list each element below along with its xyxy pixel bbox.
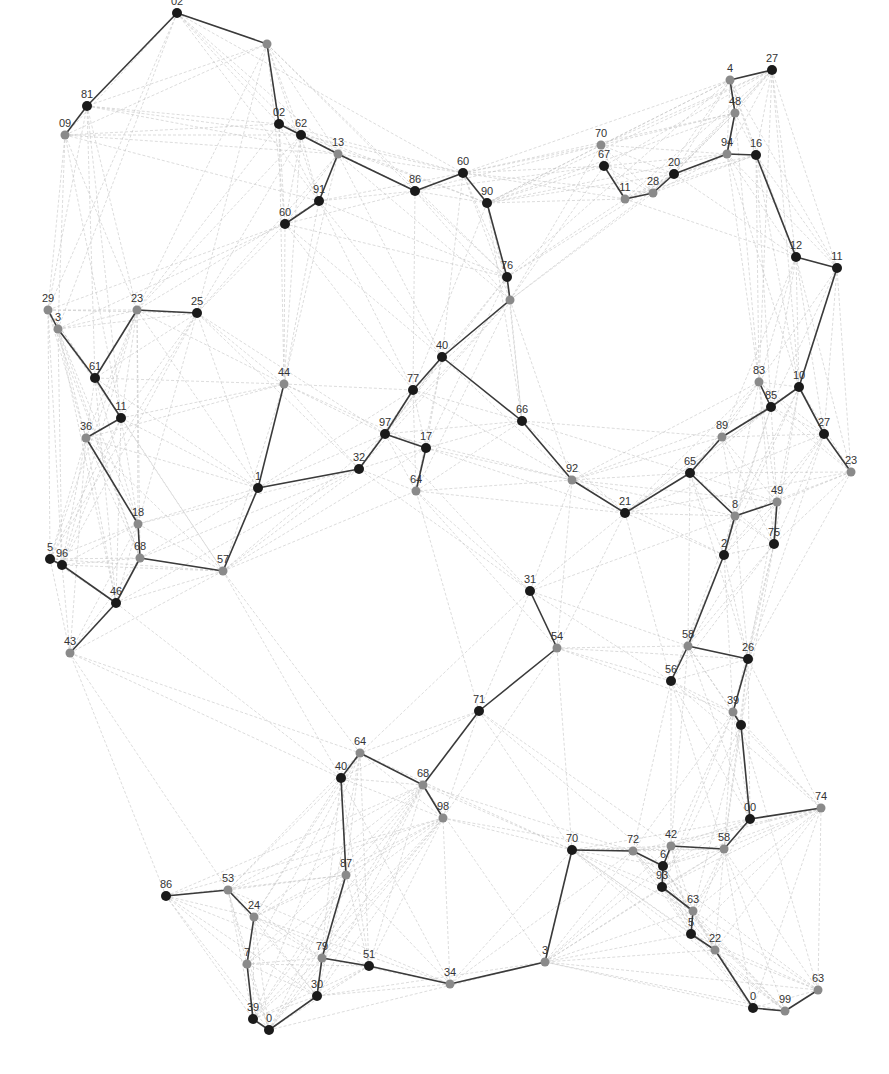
graph-node: 11 [831, 250, 842, 273]
node-label: 5 [688, 916, 694, 928]
node-label: 27 [818, 416, 830, 428]
light-edge [507, 199, 625, 277]
light-edge [416, 491, 557, 648]
graph-node: 60 [457, 155, 469, 178]
light-edge [442, 173, 463, 357]
path-edge [572, 850, 633, 851]
graph-node: 98 [437, 800, 449, 823]
light-edge [756, 155, 799, 387]
node-marker-icon [314, 196, 324, 206]
node-label: 92 [566, 462, 578, 474]
node-marker-icon [621, 195, 630, 204]
graph-node: 63 [812, 972, 824, 995]
light-edge [423, 785, 633, 851]
graph-node: 27 [766, 52, 778, 75]
graph-node: 62 [295, 117, 307, 140]
node-label: 3 [55, 311, 61, 323]
light-edge [722, 257, 796, 437]
node-marker-icon [296, 130, 306, 140]
light-edge [443, 818, 450, 984]
light-edge [818, 808, 821, 990]
light-edge [724, 849, 785, 1011]
node-label: 7 [244, 946, 250, 958]
node-label: 0 [750, 990, 756, 1002]
node-marker-icon [439, 814, 448, 823]
node-marker-icon [723, 150, 732, 159]
light-edge [48, 224, 285, 310]
node-label: 28 [647, 175, 659, 187]
node-marker-icon [649, 189, 658, 198]
node-marker-icon [736, 720, 746, 730]
graph-node: 49 [771, 484, 783, 507]
light-edge [759, 70, 772, 382]
node-label: 66 [516, 403, 528, 415]
light-edge [625, 382, 759, 513]
light-edge [671, 659, 748, 681]
node-label: 85 [765, 389, 777, 401]
node-marker-icon [264, 1025, 274, 1035]
node-label: 87 [340, 857, 352, 869]
graph-node: 18 [132, 506, 144, 529]
node-marker-icon [684, 642, 693, 651]
node-marker-icon [133, 306, 142, 315]
node-marker-icon [243, 960, 252, 969]
node-marker-icon [819, 429, 829, 439]
node-label: 21 [619, 495, 631, 507]
node-label: 32 [353, 451, 365, 463]
light-edge [319, 201, 507, 277]
node-marker-icon [263, 40, 272, 49]
light-edge [121, 384, 284, 418]
light-edge [197, 313, 359, 469]
light-edge [284, 224, 285, 384]
light-edge [284, 201, 319, 384]
node-marker-icon [482, 198, 492, 208]
graph-node: 97 [379, 416, 391, 439]
graph-node: 24 [248, 899, 260, 922]
node-label: 12 [790, 239, 802, 251]
graph-node: 51 [363, 948, 375, 971]
light-edge [197, 154, 338, 313]
light-edge [777, 434, 824, 502]
light-edge [70, 653, 166, 896]
node-marker-icon [766, 402, 776, 412]
node-marker-icon [832, 263, 842, 273]
light-edge [58, 310, 137, 329]
light-edge [724, 808, 821, 849]
light-edge [671, 681, 724, 849]
node-label: 39 [727, 694, 739, 706]
light-edge [671, 808, 821, 846]
graph-node: 85 [765, 389, 777, 412]
node-marker-icon [781, 1007, 790, 1016]
path-edge [258, 384, 284, 488]
node-marker-icon [748, 1003, 758, 1013]
light-edge [58, 329, 138, 524]
node-label: 02 [171, 0, 183, 7]
node-label: 74 [815, 790, 827, 802]
node-marker-icon [791, 252, 801, 262]
light-edge [479, 711, 671, 846]
light-edge [572, 407, 771, 480]
node-label: 83 [753, 364, 765, 376]
light-edge [693, 725, 741, 911]
node-marker-icon [817, 804, 826, 813]
node-marker-icon [219, 567, 228, 576]
node-marker-icon [568, 476, 577, 485]
graph-node: 44 [278, 366, 290, 389]
path-edge [95, 310, 137, 378]
node-marker-icon [686, 929, 696, 939]
node-label: 11 [619, 181, 630, 193]
graph-node: 22 [709, 932, 721, 955]
node-marker-icon [161, 891, 171, 901]
light-edge [443, 818, 572, 850]
light-edge [87, 106, 95, 378]
node-marker-icon [336, 773, 346, 783]
light-edge [138, 469, 359, 524]
light-edge [748, 472, 851, 659]
node-label: 43 [64, 635, 76, 647]
light-edge [741, 544, 774, 725]
light-edge [545, 846, 671, 962]
light-edge [601, 70, 772, 145]
graph-node: 89 [716, 419, 728, 442]
graph-node: 31 [524, 573, 536, 596]
node-label: 0 [266, 1012, 272, 1024]
